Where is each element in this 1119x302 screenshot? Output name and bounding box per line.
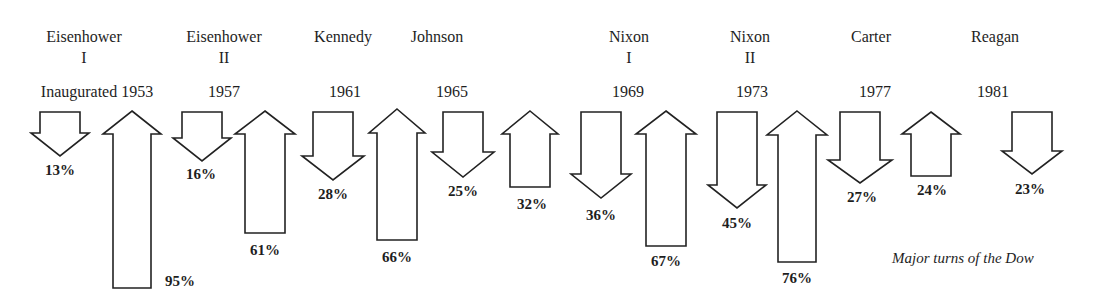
percent-change-label: 25% <box>448 184 478 199</box>
percent-change-label: 67% <box>651 254 681 269</box>
percent-change-label: 66% <box>382 250 412 265</box>
president-name: Reagan <box>971 29 1019 45</box>
percent-change-label: 76% <box>782 271 812 286</box>
president-name: Eisenhower <box>46 29 122 45</box>
president-name: Carter <box>851 29 891 45</box>
term-numeral: II <box>745 50 756 66</box>
percent-change-label: 23% <box>1015 182 1045 197</box>
term-numeral: I <box>626 50 631 66</box>
term-numeral: II <box>219 50 230 66</box>
down-arrow-icon <box>302 112 364 180</box>
up-arrow-icon <box>767 111 827 262</box>
percent-change-label: 27% <box>847 190 877 205</box>
percent-change-label: 32% <box>517 197 547 212</box>
inauguration-year: 1965 <box>436 84 468 100</box>
term-numeral: I <box>81 50 86 66</box>
percent-change-label: 16% <box>186 167 216 182</box>
percent-change-label: 24% <box>917 183 947 198</box>
down-arrow-icon <box>708 112 766 208</box>
percent-change-label: 28% <box>318 187 348 202</box>
percent-change-label: 95% <box>165 274 195 289</box>
up-arrow-icon <box>902 112 960 176</box>
up-arrow-icon <box>369 109 425 240</box>
percent-change-label: 36% <box>586 208 616 223</box>
inauguration-year: 1981 <box>977 84 1009 100</box>
down-arrow-icon <box>1002 112 1062 174</box>
down-arrow-icon <box>31 112 89 156</box>
inauguration-year: 1957 <box>208 84 240 100</box>
inauguration-year: 1973 <box>736 84 768 100</box>
down-arrow-icon <box>828 112 892 183</box>
president-name: Kennedy <box>314 29 372 45</box>
up-arrow-icon <box>502 111 558 187</box>
dow-presidential-chart: EisenhowerIInaugurated 1953EisenhowerII1… <box>0 0 1119 302</box>
president-name: Eisenhower <box>186 29 262 45</box>
chart-caption: Major turns of the Dow <box>892 251 1034 266</box>
president-name: Johnson <box>411 29 463 45</box>
president-name: Nixon <box>730 29 770 45</box>
inauguration-year: Inaugurated 1953 <box>41 84 153 100</box>
up-arrow-icon <box>636 111 696 246</box>
up-arrow-icon <box>235 111 295 233</box>
down-arrow-icon <box>571 112 631 198</box>
inauguration-year: 1961 <box>329 84 361 100</box>
president-name: Nixon <box>609 29 649 45</box>
percent-change-label: 13% <box>45 163 75 178</box>
inauguration-year: 1977 <box>859 84 891 100</box>
up-arrow-icon <box>103 111 161 288</box>
inauguration-year: 1969 <box>612 84 644 100</box>
percent-change-label: 61% <box>250 243 280 258</box>
percent-change-label: 45% <box>722 216 752 231</box>
down-arrow-icon <box>432 112 494 177</box>
down-arrow-icon <box>173 112 231 161</box>
